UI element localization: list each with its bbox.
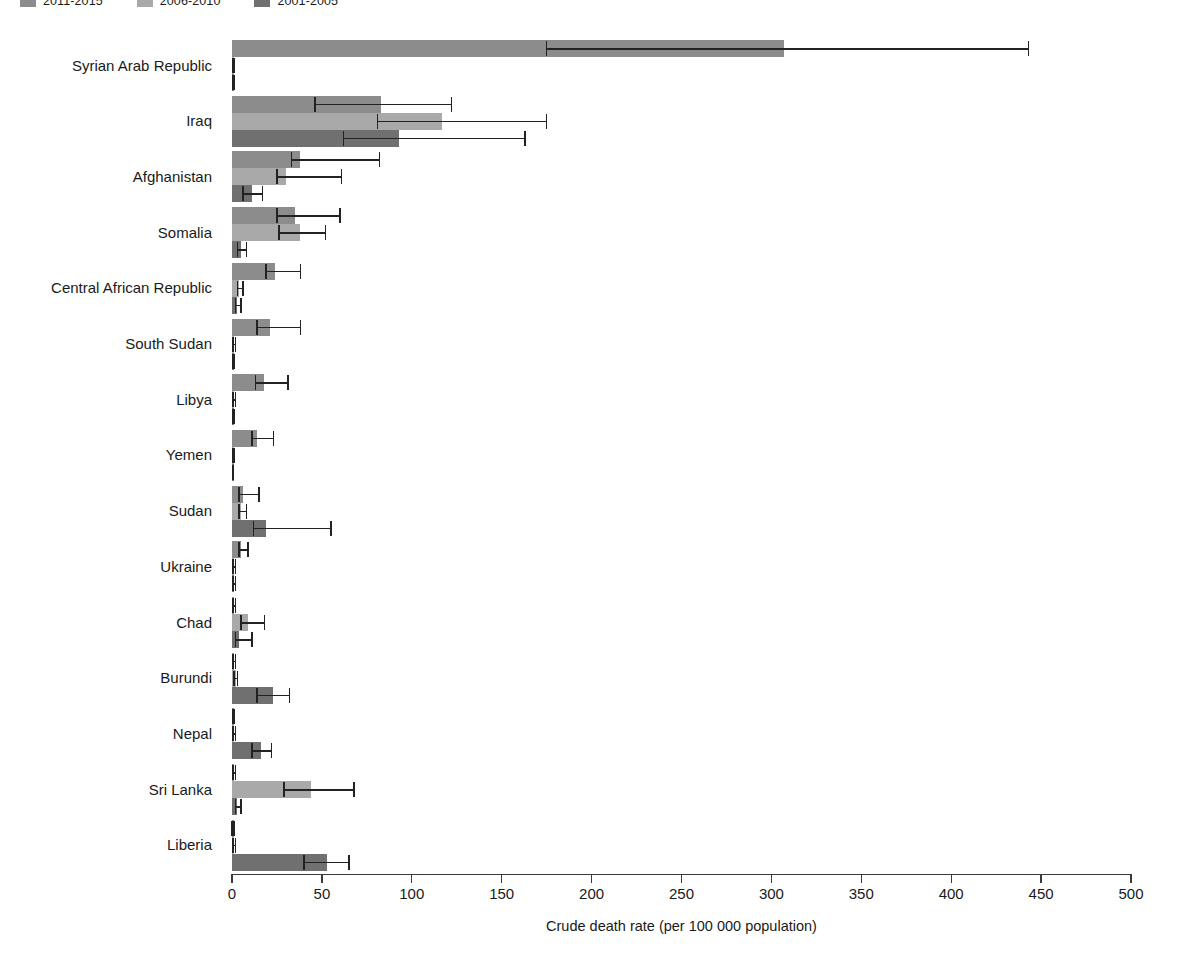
x-axis-tick [501,874,502,883]
x-axis-tick-label: 300 [759,885,784,902]
bar-group [232,430,1131,481]
error-bar-cap-low [276,169,278,184]
bar-row [232,241,1131,258]
error-bar-cap-low [546,41,548,56]
error-bar-cap-high [233,709,235,724]
bar-row [232,96,1131,113]
error-bar-line [284,789,354,791]
y-axis-label: Chad [6,614,212,631]
error-bar-cap-low [232,654,234,669]
error-bar-cap-high [233,354,235,369]
error-bar-cap-high [233,465,235,480]
error-bar-cap-low [235,632,237,647]
error-bar-cap-low [232,765,234,780]
y-axis-label: Central African Republic [6,279,212,296]
error-bar-cap-high [246,242,248,257]
bar-row [232,168,1131,185]
error-bar-cap-high [237,671,239,686]
bar-group [232,374,1131,425]
y-axis-label: Somalia [6,224,212,241]
error-bar-cap-high [235,392,237,407]
bar-row [232,597,1131,614]
error-bar-cap-low [232,598,234,613]
error-bar-cap-low [283,782,285,797]
x-axis-ticks: 050100150200250300350400450500 [232,874,1131,908]
bar-row [232,430,1131,447]
y-axis-label: Burundi [6,669,212,686]
bar-row [232,74,1131,91]
error-bar-cap-high [262,186,264,201]
x-axis-tick-label: 0 [228,885,236,902]
error-bar-cap-high [325,225,327,240]
error-bar-cap-low [253,521,255,536]
bar-row [232,742,1131,759]
error-bar-cap-low [232,726,234,741]
error-bar-cap-low [251,431,253,446]
error-bar-cap-high [251,632,253,647]
error-bar-cap-low [303,855,305,870]
x-axis-tick-label: 500 [1118,885,1143,902]
x-axis-tick-label: 400 [939,885,964,902]
error-bar-cap-high [234,58,236,73]
error-bar-line [257,695,289,697]
bar-row [232,57,1131,74]
error-bar-cap-low [235,298,237,313]
error-bar-cap-low [232,559,234,574]
y-axis-label: Afghanistan [6,168,212,185]
error-bar-cap-low [232,392,234,407]
bar-row [232,297,1131,314]
error-bar-cap-high [264,615,266,630]
error-bar-cap-low [233,671,235,686]
bar-row [232,40,1131,57]
y-axis-label: Libya [6,391,212,408]
error-bar-cap-low [343,131,345,146]
bar-row [232,558,1131,575]
y-axis-label: Yemen [6,446,212,463]
x-axis-title: Crude death rate (per 100 000 population… [232,918,1131,934]
error-bar-cap-low [256,688,258,703]
error-bar-cap-high [247,542,249,557]
bar-row [232,486,1131,503]
bar-row [232,207,1131,224]
bar-row [232,113,1131,130]
bar-row [232,263,1131,280]
error-bar-line [291,159,379,161]
bar-group [232,708,1131,759]
error-bar-cap-high [235,576,237,591]
x-axis-tick-label: 350 [849,885,874,902]
bar-group [232,486,1131,537]
y-axis-label: Syrian Arab Republic [6,57,212,74]
bar-row [232,280,1131,297]
bar-row [232,614,1131,631]
error-bar-cap-high [240,799,242,814]
error-bar-line [277,176,342,178]
error-bar-cap-high [234,75,236,90]
error-bar-cap-low [255,375,257,390]
error-bar-cap-low [232,576,234,591]
error-bar-cap-low [238,504,240,519]
error-bar-line [252,438,274,440]
error-bar-cap-low [251,743,253,758]
bar-group [232,40,1131,91]
error-bar-cap-high [235,838,237,853]
error-bar-line [277,215,340,217]
x-axis-tick [861,874,862,883]
bar-group [232,541,1131,592]
error-bar-cap-high [258,487,260,502]
x-axis-tick [951,874,952,883]
error-bar-cap-low [238,487,240,502]
error-bar-cap-low [238,542,240,557]
y-axis-label: Nepal [6,725,212,742]
error-bar-line [236,639,252,641]
bar-group [232,151,1131,202]
error-bar-cap-high [289,688,291,703]
x-axis-tick [321,874,322,883]
bar-row [232,837,1131,854]
error-bar-cap-low [291,152,293,167]
bar-group [232,319,1131,370]
bar-row [232,151,1131,168]
bar-group [232,764,1131,815]
error-bar-line [257,327,300,329]
x-axis-tick-label: 200 [579,885,604,902]
y-axis-label: South Sudan [6,335,212,352]
